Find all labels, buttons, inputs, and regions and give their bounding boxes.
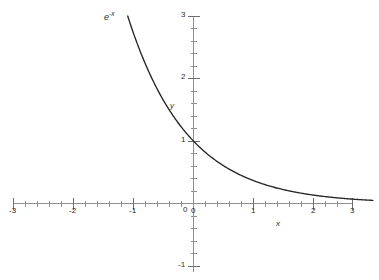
x-axis-name-label: x <box>276 220 280 228</box>
y-tick-label-0: 0 <box>183 206 187 214</box>
exp-decay-curve <box>128 16 373 200</box>
y-tick-label-3: 3 <box>181 11 185 19</box>
y-tick-label-1: 1 <box>181 136 185 144</box>
x-tick-label--1: -1 <box>129 207 136 215</box>
x-tick-label-1: 1 <box>251 207 255 215</box>
y-axis-group <box>188 16 200 272</box>
plot-canvas <box>0 0 379 280</box>
curve-label-exp-neg-x: e-x <box>104 13 114 22</box>
x-tick-label-3: 3 <box>350 207 354 215</box>
y-tick-label--1: -1 <box>178 261 185 269</box>
x-tick-label-2: 2 <box>311 207 315 215</box>
exponential-decay-plot: e-x y x -3 -2 -1 0 1 2 3 3 2 1 0 -1 <box>0 0 379 280</box>
y-tick-label-2: 2 <box>181 73 185 81</box>
x-tick-label-0: 0 <box>191 207 195 215</box>
curve-label-exponent: -x <box>109 10 114 17</box>
y-axis-name-label: y <box>170 102 174 110</box>
x-tick-label--2: -2 <box>69 207 76 215</box>
x-tick-label--3: -3 <box>9 207 16 215</box>
